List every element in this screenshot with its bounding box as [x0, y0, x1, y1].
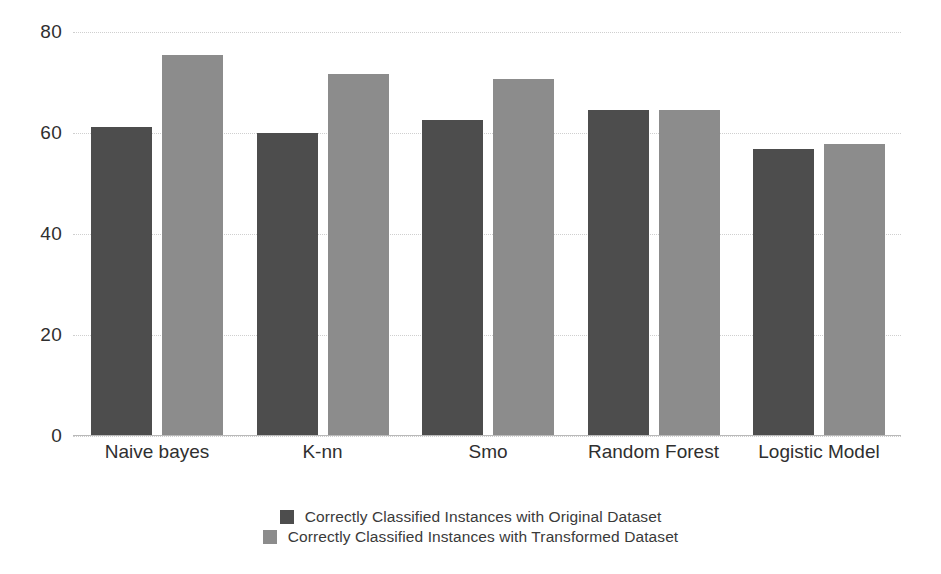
y-tick-label-0: 0: [51, 425, 62, 447]
legend-item: Correctly Classified Instances with Tran…: [263, 528, 679, 546]
legend-item: Correctly Classified Instances with Orig…: [280, 508, 662, 526]
bar: [257, 133, 318, 437]
y-tick-label-20: 20: [40, 324, 62, 346]
x-axis-line: [73, 435, 901, 436]
bar-groups: [73, 32, 901, 436]
x-tick-label: Random Forest: [588, 441, 720, 471]
bar-group: [257, 32, 389, 436]
bar: [493, 79, 554, 436]
x-tick-label: Smo: [422, 441, 554, 471]
bar-group: [91, 32, 223, 436]
y-tick-label-80: 80: [40, 21, 62, 43]
legend: Correctly Classified Instances with Orig…: [0, 508, 941, 546]
bar: [422, 120, 483, 436]
y-tick-label-40: 40: [40, 223, 62, 245]
bar: [91, 127, 152, 436]
bar: [753, 149, 814, 436]
x-tick-label: Naive bayes: [91, 441, 223, 471]
x-tick-label: K-nn: [257, 441, 389, 471]
gridline-0: [73, 436, 901, 437]
bar: [162, 55, 223, 436]
bar: [659, 110, 720, 436]
y-tick-label-60: 60: [40, 122, 62, 144]
legend-swatch-icon: [263, 530, 277, 544]
bar-group: [422, 32, 554, 436]
y-axis-labels: 020406080: [0, 32, 62, 436]
legend-swatch-icon: [280, 510, 294, 524]
x-tick-label: Logistic Model: [753, 441, 885, 471]
bar-group: [753, 32, 885, 436]
bar: [588, 110, 649, 436]
bar: [824, 144, 885, 436]
bar: [328, 74, 389, 436]
x-axis-labels: Naive bayesK-nnSmoRandom ForestLogistic …: [73, 441, 901, 471]
bar-chart: 020406080 Naive bayesK-nnSmoRandom Fores…: [0, 0, 941, 574]
bar-group: [588, 32, 720, 436]
legend-label: Correctly Classified Instances with Tran…: [288, 528, 679, 546]
plot-area: [73, 32, 901, 436]
legend-label: Correctly Classified Instances with Orig…: [305, 508, 662, 526]
